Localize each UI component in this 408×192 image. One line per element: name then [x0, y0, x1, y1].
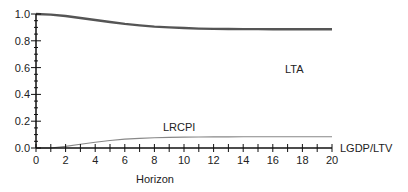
y-tick-label: 0.0 — [15, 142, 30, 154]
axes: 024681012141618200.00.20.40.60.81.0 — [15, 8, 338, 166]
x-tick-label: 0 — [33, 154, 39, 166]
x-tick-label: 14 — [237, 154, 249, 166]
series-label-lta: LTA — [285, 63, 304, 75]
y-tick-label: 0.4 — [15, 88, 30, 100]
x-tick-label: 2 — [63, 154, 69, 166]
x-tick-label: 10 — [178, 154, 190, 166]
x-tick-label: 4 — [92, 154, 98, 166]
x-tick-label: 6 — [122, 154, 128, 166]
x-tick-label: 12 — [207, 154, 219, 166]
series-label-lrcpi: LRCPI — [163, 121, 195, 133]
series-label-lgdp-ltv: LGDP/LTV — [340, 142, 393, 154]
series-line-lta — [36, 14, 332, 29]
x-tick-label: 8 — [151, 154, 157, 166]
x-tick-label: 20 — [326, 154, 338, 166]
y-tick-label: 0.2 — [15, 115, 30, 127]
x-tick-label: 16 — [267, 154, 279, 166]
x-tick-label: 18 — [296, 154, 308, 166]
line-chart: 024681012141618200.00.20.40.60.81.0 LTA … — [0, 0, 408, 192]
y-tick-label: 1.0 — [15, 8, 30, 20]
x-axis-title: Horizon — [136, 173, 174, 185]
y-tick-label: 0.6 — [15, 62, 30, 74]
y-tick-label: 0.8 — [15, 35, 30, 47]
